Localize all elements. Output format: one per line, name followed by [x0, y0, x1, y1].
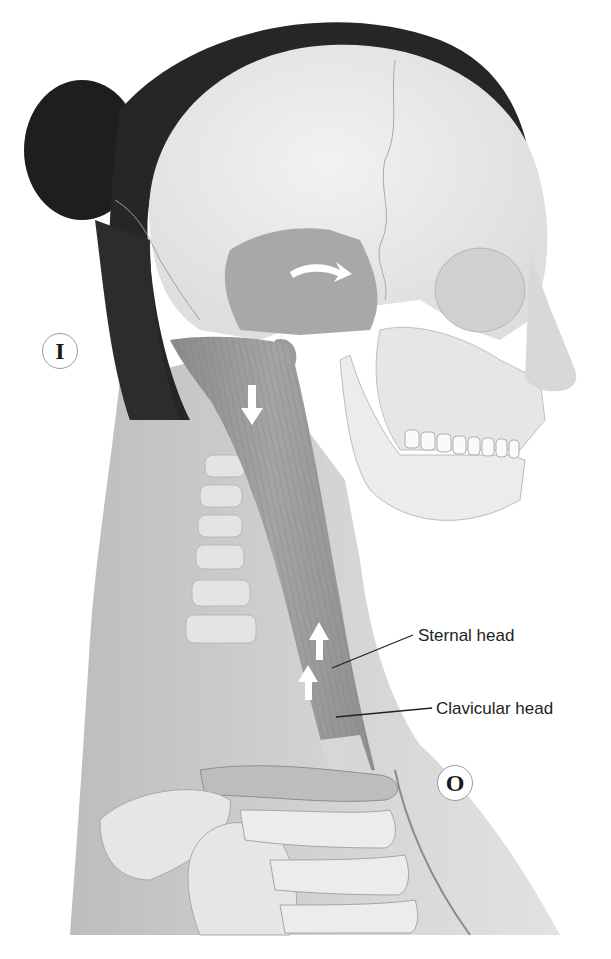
sternal-head-label: Sternal head: [418, 627, 514, 644]
insertion-marker: I: [42, 333, 78, 369]
insertion-marker-text: I: [55, 338, 64, 365]
origin-marker-text: O: [446, 770, 465, 797]
origin-marker: O: [437, 765, 473, 801]
anatomy-figure: Sternal head Clavicular head I O: [0, 0, 611, 959]
anatomy-illustration: [0, 0, 611, 959]
clavicular-head-label: Clavicular head: [436, 700, 553, 717]
